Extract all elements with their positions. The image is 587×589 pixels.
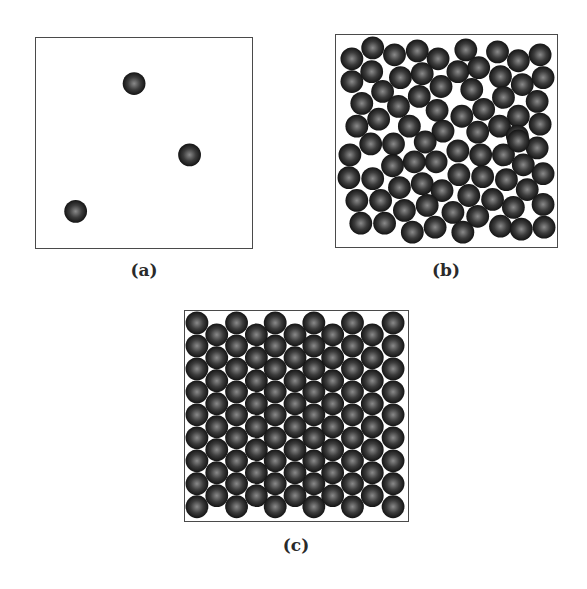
sphere (341, 449, 364, 472)
sphere (382, 449, 405, 472)
sphere (205, 323, 228, 346)
sphere (186, 426, 209, 449)
sphere (406, 39, 429, 62)
sphere (264, 357, 287, 380)
sphere (186, 495, 209, 518)
sphere (424, 216, 447, 239)
sphere (205, 484, 228, 507)
sphere (507, 49, 530, 72)
sphere (447, 163, 470, 186)
sphere (382, 472, 405, 495)
sphere (532, 66, 555, 89)
sphere (225, 334, 248, 357)
panel-b-liquid (335, 34, 558, 248)
sphere (492, 86, 515, 109)
sphere (495, 168, 518, 191)
sphere (361, 392, 384, 415)
sphere (361, 415, 384, 438)
sphere (186, 403, 209, 426)
sphere (359, 133, 382, 156)
sphere (225, 426, 248, 449)
sphere (451, 221, 474, 244)
sphere (361, 346, 384, 369)
sphere (526, 90, 549, 113)
sphere (414, 131, 437, 154)
sphere (341, 380, 364, 403)
sphere (529, 43, 552, 66)
sphere (447, 60, 470, 83)
sphere (341, 472, 364, 495)
sphere (64, 200, 87, 223)
sphere (321, 415, 344, 438)
sphere (393, 199, 416, 222)
sphere (205, 392, 228, 415)
sphere (349, 212, 372, 235)
sphere (382, 311, 405, 334)
sphere (341, 426, 364, 449)
sphere (264, 472, 287, 495)
sphere (345, 189, 368, 212)
sphere (338, 166, 361, 189)
sphere (471, 165, 494, 188)
sphere (502, 196, 525, 219)
sphere (382, 334, 405, 357)
sphere (382, 495, 405, 518)
sphere (382, 426, 405, 449)
sphere (225, 472, 248, 495)
sphere (361, 461, 384, 484)
sphere (361, 323, 384, 346)
sphere (361, 36, 384, 59)
panel-a-spheres (36, 38, 252, 248)
panel-c-solid (184, 310, 409, 522)
sphere (225, 495, 248, 518)
sphere (178, 143, 201, 166)
sphere (302, 311, 325, 334)
sphere (341, 334, 364, 357)
sphere (416, 194, 439, 217)
sphere (467, 56, 490, 79)
sphere (123, 72, 146, 95)
sphere (442, 201, 465, 224)
sphere (205, 438, 228, 461)
sphere (321, 392, 344, 415)
sphere (341, 403, 364, 426)
sphere (321, 484, 344, 507)
sphere (472, 98, 495, 121)
sphere (341, 357, 364, 380)
sphere (225, 449, 248, 472)
sphere (264, 426, 287, 449)
sphere (341, 495, 364, 518)
sphere (264, 403, 287, 426)
sphere (186, 472, 209, 495)
sphere (186, 334, 209, 357)
sphere (186, 357, 209, 380)
panel-b-label: (b) (416, 260, 476, 280)
sphere (361, 484, 384, 507)
panel-c-spheres (185, 311, 408, 521)
sphere (186, 380, 209, 403)
sphere (382, 133, 405, 156)
sphere (426, 99, 449, 122)
sphere (321, 323, 344, 346)
sphere (469, 143, 492, 166)
sphere (408, 85, 431, 108)
sphere (383, 43, 406, 66)
panel-b-spheres (336, 35, 557, 247)
sphere (361, 438, 384, 461)
sphere (361, 167, 384, 190)
sphere (510, 218, 533, 241)
sphere (264, 311, 287, 334)
sphere (225, 380, 248, 403)
sphere (186, 311, 209, 334)
sphere (360, 60, 383, 83)
sphere (411, 62, 434, 85)
sphere (382, 357, 405, 380)
sphere (382, 380, 405, 403)
sphere (373, 212, 396, 235)
sphere (460, 78, 483, 101)
sphere (339, 143, 362, 166)
sphere (321, 346, 344, 369)
sphere (447, 140, 470, 163)
sphere (225, 357, 248, 380)
sphere (264, 380, 287, 403)
